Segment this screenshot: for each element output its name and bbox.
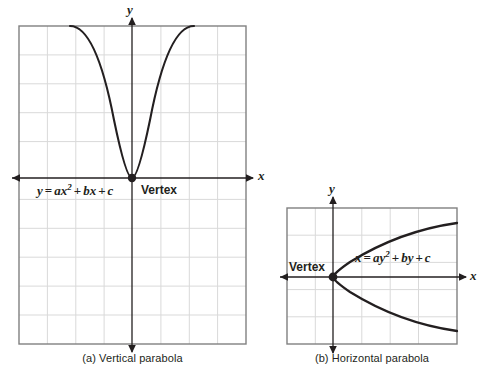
eq-b-term-c: c (425, 250, 431, 265)
y-axis-a (128, 17, 136, 353)
eq-a-plus-2: + (98, 183, 105, 198)
vertex-label-a: Vertex (141, 183, 177, 197)
eq-a-plus-1: + (74, 183, 81, 198)
caption-panel-a: (a) Vertical parabola (19, 352, 246, 364)
vertex-dot-b (329, 273, 338, 282)
vertex-dot-a (128, 174, 136, 182)
y-axis-label-a: y (127, 2, 133, 18)
eq-a-term-c: c (108, 183, 114, 198)
eq-a-equals: = (45, 183, 52, 198)
x-axis-label-a: x (258, 168, 265, 184)
eq-a-term-b: bx (83, 183, 96, 198)
x-axis-b (280, 273, 467, 281)
eq-b-lhs: x (355, 250, 362, 265)
panel-b (280, 196, 467, 354)
eq-b-term-a: ay (373, 250, 385, 265)
x-axis-label-b: x (470, 268, 477, 284)
vertex-label-b: Vertex (289, 260, 325, 274)
equation-label-a: y=ax2+bx+c (37, 182, 113, 199)
eq-a-term-a: ax (54, 183, 67, 198)
eq-a-exponent: 2 (67, 182, 72, 192)
y-axis-label-b: y (329, 181, 335, 197)
figure-root: y x y=ax2+bx+c Vertex y x x=ay2+by+c Ver… (0, 0, 483, 380)
eq-b-equals: = (364, 250, 371, 265)
equation-label-b: x=ay2+by+c (355, 249, 431, 266)
eq-b-plus-1: + (392, 250, 399, 265)
eq-a-lhs: y (37, 183, 43, 198)
eq-b-plus-2: + (415, 250, 422, 265)
eq-b-exponent: 2 (385, 249, 390, 259)
caption-panel-b: (b) Horizontal parabola (287, 352, 457, 364)
eq-b-term-b: by (401, 250, 413, 265)
